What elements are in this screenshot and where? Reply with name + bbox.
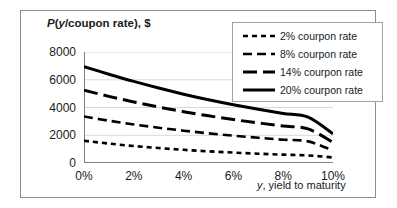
- legend-line-swatch-20pct: [242, 85, 276, 95]
- legend-line-swatch-14pct: [242, 67, 276, 77]
- chart-figure-border: P(y/coupon rate), $ y, yield to maturity…: [20, 10, 376, 198]
- x-tick-label: 4%: [164, 170, 204, 182]
- legend-label-8pct: 8% courpon rate: [280, 49, 357, 59]
- series-line-2pct: [84, 141, 333, 158]
- y-axis-title-p: P: [47, 17, 55, 29]
- legend-item-8pct[interactable]: 8% courpon rate: [233, 45, 382, 63]
- chart-legend: 2% courpon rate8% courpon rate14% courpo…: [232, 22, 383, 102]
- legend-label-2pct: 2% courpon rate: [280, 31, 357, 41]
- x-tick-label: 2%: [114, 170, 154, 182]
- y-tick-label: 8000: [32, 46, 76, 58]
- legend-line-swatch-2pct: [242, 31, 276, 41]
- y-tick-label: 4000: [32, 102, 76, 114]
- legend-item-2pct[interactable]: 2% courpon rate: [233, 27, 382, 45]
- legend-label-14pct: 14% courpon rate: [280, 67, 363, 77]
- y-tick-label: 2000: [32, 129, 76, 141]
- x-tick-label: 10%: [313, 170, 353, 182]
- x-tick-label: 0%: [64, 170, 104, 182]
- x-tick-label: 6%: [213, 170, 253, 182]
- y-tick-label: 6000: [32, 74, 76, 86]
- legend-line-swatch-8pct: [242, 49, 276, 59]
- x-tick-label: 8%: [263, 170, 303, 182]
- legend-item-14pct[interactable]: 14% courpon rate: [233, 63, 382, 81]
- legend-label-20pct: 20% courpon rate: [280, 85, 363, 95]
- y-axis-title: P(y/coupon rate), $: [47, 17, 151, 29]
- y-tick-label: 0: [32, 157, 76, 169]
- y-axis-title-rest: /coupon rate), $: [65, 17, 151, 29]
- legend-item-20pct[interactable]: 20% courpon rate: [233, 81, 382, 99]
